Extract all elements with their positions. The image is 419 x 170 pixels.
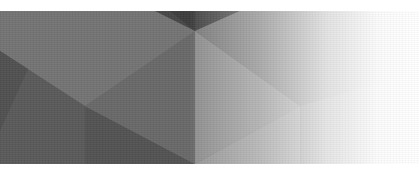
geometric-pattern (0, 11, 419, 164)
page-background (0, 0, 419, 170)
geometric-banner-image (0, 11, 419, 164)
white-fade-overlay (0, 11, 419, 164)
